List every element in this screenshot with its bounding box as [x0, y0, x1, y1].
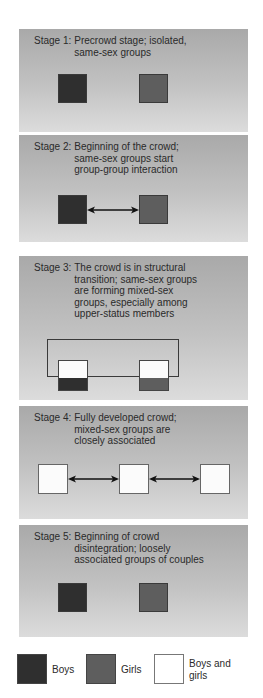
double-arrow-icon — [87, 210, 139, 211]
stage-1-caption: Stage 1: Precrowd stage; isolated, same-… — [34, 35, 187, 58]
boys-part — [59, 378, 87, 390]
mixed-part — [59, 361, 87, 378]
legend-boys-label: Boys — [52, 664, 74, 676]
boys-group-square — [58, 583, 87, 612]
boys-group-square — [58, 195, 87, 224]
stage-4-caption: Stage 4: Fully developed crowd; mixed-se… — [34, 412, 177, 447]
stage-3-panel: Stage 3: The crowd is in structural tran… — [19, 256, 248, 400]
mixed-group-forming — [58, 360, 88, 391]
legend-mixed-swatch — [154, 654, 184, 684]
stage-2-caption: Stage 2: Beginning of the crowd; same-se… — [34, 141, 179, 176]
legend-girls-swatch — [86, 654, 116, 684]
stage-description: Precrowd stage; isolated, same-sex group… — [74, 35, 186, 58]
mixed-group-square — [200, 464, 230, 494]
girls-part — [140, 378, 168, 390]
stage-label: Stage 5: — [34, 531, 71, 566]
stage-label: Stage 2: — [34, 141, 71, 176]
stage-4-panel: Stage 4: Fully developed crowd; mixed-se… — [19, 406, 248, 519]
girls-group-square — [139, 74, 168, 103]
girls-group-square — [139, 583, 168, 612]
mixed-part — [140, 361, 168, 378]
mixed-group-square — [119, 464, 149, 494]
legend-mixed-label: Boys and girls — [189, 658, 231, 681]
boys-group-square — [58, 74, 87, 103]
stage-label: Stage 1: — [34, 35, 71, 58]
double-arrow-icon — [68, 479, 119, 480]
stage-1-panel: Stage 1: Precrowd stage; isolated, same-… — [19, 29, 248, 132]
girls-group-square — [139, 195, 168, 224]
stage-description: Fully developed crowd; mixed-sex groups … — [74, 412, 176, 447]
stage-3-caption: Stage 3: The crowd is in structural tran… — [34, 262, 197, 320]
legend-girls-label: Girls — [121, 664, 142, 676]
stage-description: The crowd is in structural transition; s… — [74, 262, 197, 320]
stage-description: Beginning of the crowd; same-sex groups … — [74, 141, 179, 176]
stage-5-caption: Stage 5: Beginning of crowd disintegrati… — [34, 531, 204, 566]
stage-5-panel: Stage 5: Beginning of crowd disintegrati… — [19, 525, 248, 637]
legend-boys-swatch — [17, 654, 47, 684]
mixed-group-square — [38, 464, 68, 494]
stage-2-panel: Stage 2: Beginning of the crowd; same-se… — [19, 135, 248, 242]
double-arrow-icon — [149, 479, 200, 480]
mixed-group-forming — [139, 360, 169, 391]
stage-label: Stage 3: — [34, 262, 71, 320]
stage-description: Beginning of crowd disintegration; loose… — [74, 531, 204, 566]
stage-label: Stage 4: — [34, 412, 71, 447]
